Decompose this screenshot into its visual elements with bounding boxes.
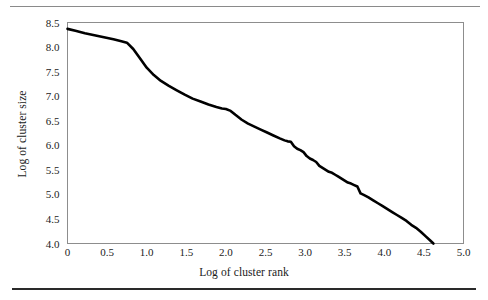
figure-container: Log of cluster size Log of cluster rank … — [0, 0, 488, 300]
plot-area — [0, 0, 488, 300]
